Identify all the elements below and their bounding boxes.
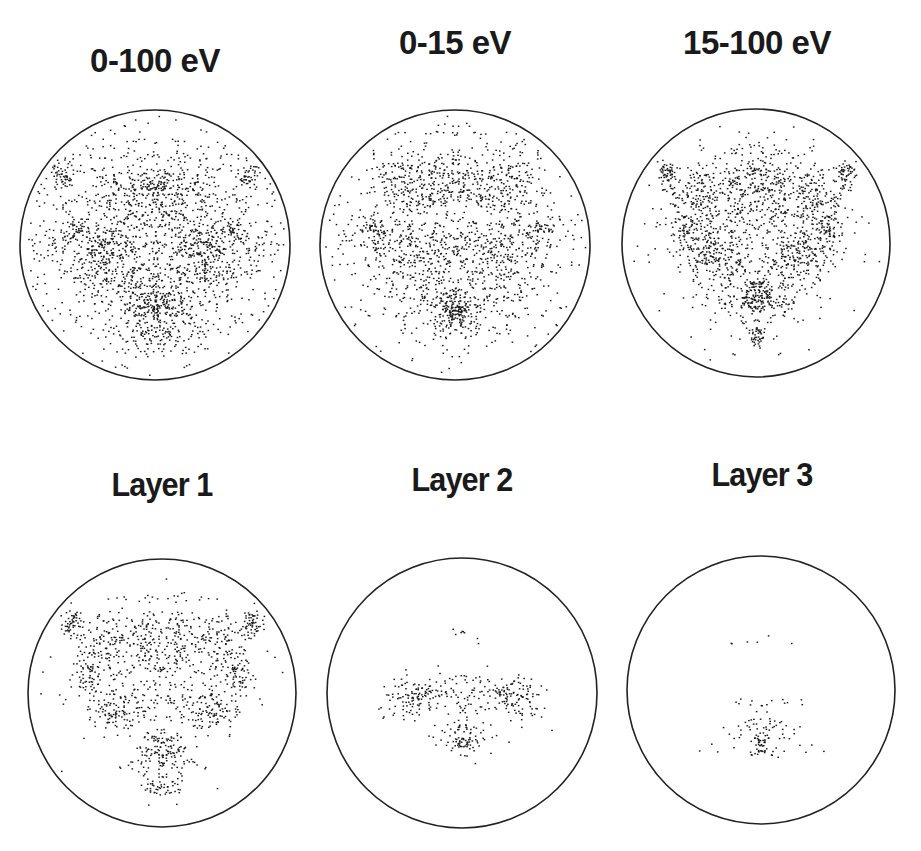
data-points xyxy=(633,126,880,361)
scatter-panel-2 xyxy=(320,110,590,380)
data-points xyxy=(378,629,553,765)
boundary-circle xyxy=(627,556,895,824)
data-points xyxy=(28,116,284,376)
boundary-circle xyxy=(20,110,290,380)
data-points xyxy=(40,578,283,805)
scatter-panel-1 xyxy=(20,110,290,380)
scatter-panel-4 xyxy=(28,559,296,827)
scatter-panel-3 xyxy=(622,109,890,377)
scatter-plots xyxy=(0,0,921,851)
scatter-panel-6 xyxy=(627,556,895,824)
scatter-panel-5 xyxy=(327,558,597,828)
data-points xyxy=(699,635,825,758)
data-points xyxy=(325,116,586,373)
